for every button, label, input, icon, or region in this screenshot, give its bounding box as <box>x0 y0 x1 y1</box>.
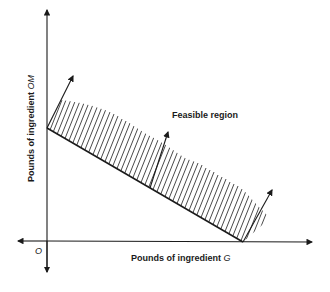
feasible-region-diagram: O Feasible region Pounds of ingredient G… <box>0 0 330 292</box>
direction-arrows <box>47 76 272 242</box>
x-axis-label: Pounds of ingredient G <box>131 253 231 263</box>
arrow-left <box>47 76 73 128</box>
feasible-region-label: Feasible region <box>172 110 238 120</box>
y-axis-label-text: Pounds of ingredient <box>26 90 36 183</box>
x-axis-var: G <box>224 253 231 263</box>
y-axis-label: Pounds of ingredient OM <box>26 74 36 182</box>
y-axis-var: OM <box>26 74 36 89</box>
x-axis <box>18 241 312 242</box>
x-axis-label-text: Pounds of ingredient <box>131 253 224 263</box>
origin-label: O <box>35 246 42 256</box>
arrow-right <box>243 190 272 242</box>
